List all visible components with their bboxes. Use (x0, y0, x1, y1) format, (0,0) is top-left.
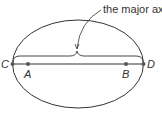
label-a: A (23, 68, 31, 80)
label-d: D (147, 58, 155, 70)
point-a (26, 62, 30, 66)
leader-arrow (77, 10, 101, 48)
major-axis-label: the major axis (103, 3, 162, 15)
label-c: C (1, 58, 9, 70)
ellipse-diagram: the major axis C A B D (0, 0, 162, 113)
point-c (11, 62, 15, 66)
point-b (124, 62, 128, 66)
brace (13, 51, 143, 62)
label-b: B (122, 68, 129, 80)
point-d (142, 62, 146, 66)
